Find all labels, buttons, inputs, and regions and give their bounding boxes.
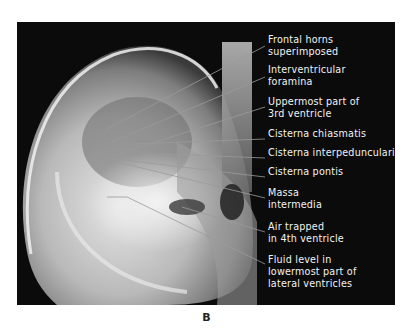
label-air-trapped: Air trapped in 4th ventricle <box>268 221 344 245</box>
label-cisterna-pontis: Cisterna pontis <box>268 166 343 178</box>
label-cisterna-interpeduncularis: Cisterna interpeduncularis <box>268 147 395 159</box>
label-3rd-ventricle: Uppermost part of 3rd ventricle <box>268 96 359 120</box>
label-cisterna-chiasmatis: Cisterna chiasmatis <box>268 128 366 140</box>
label-interventricular-foramina: Interventricular foramina <box>268 64 346 88</box>
label-frontal-horns: Frontal horns superimposed <box>268 34 338 58</box>
panel-letter: B <box>0 311 413 324</box>
xray-figure: Frontal horns superimposed Interventricu… <box>17 22 395 305</box>
label-massa-intermedia: Massa intermedia <box>268 187 322 211</box>
label-fluid-level: Fluid level in lowermost part of lateral… <box>268 254 356 290</box>
